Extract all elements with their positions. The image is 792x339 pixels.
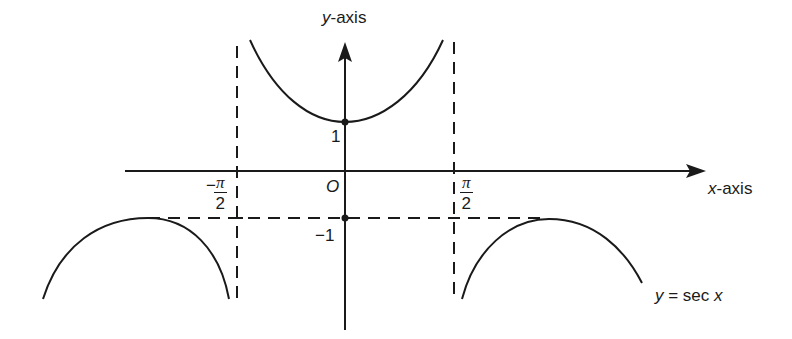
y-axis-label: y-axis	[322, 9, 366, 26]
y-axis	[338, 42, 352, 330]
origin-label: O	[326, 178, 339, 195]
y-axis-suffix: -axis	[331, 8, 367, 27]
y-tick-neg-one: −1	[315, 227, 334, 244]
right-branch	[462, 219, 642, 299]
point-0-1	[342, 119, 349, 126]
neg-half-pi-num: π	[214, 174, 227, 193]
curve-label-lhs: y	[655, 286, 664, 305]
y-tick-one: 1	[331, 128, 340, 145]
neg-half-pi-den: 2	[216, 193, 225, 212]
neg-half-pi-label: π 2	[214, 174, 227, 212]
half-pi-label: π 2	[460, 174, 473, 212]
half-pi-den: 2	[462, 193, 471, 212]
curve-label-rhs: x	[714, 286, 723, 305]
curve-label-eq: = sec	[664, 286, 715, 305]
x-axis-label: x-axis	[708, 180, 752, 197]
point-0-neg1	[342, 215, 349, 222]
y-axis-var: y	[322, 8, 331, 27]
x-axis-suffix: -axis	[717, 179, 753, 198]
half-pi-num: π	[460, 174, 473, 193]
curve-label: y = sec x	[655, 287, 723, 304]
x-axis-var: x	[708, 179, 717, 198]
left-branch	[43, 218, 229, 299]
